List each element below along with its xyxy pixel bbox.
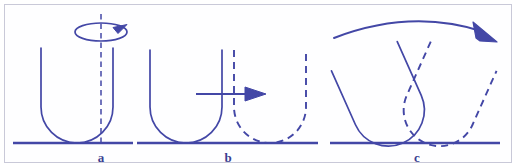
figure-container: a b <box>0 0 516 167</box>
panel-b-label: b <box>224 150 231 165</box>
panel-c: c <box>330 21 500 165</box>
panel-c-rotation-arc-shaft <box>334 21 484 38</box>
panel-b: b <box>137 50 318 165</box>
panel-b-translation-arrowhead-icon <box>245 87 266 101</box>
panel-c-rotation-arrowhead-icon <box>473 22 497 42</box>
panel-a-label: a <box>98 150 105 165</box>
panel-b-u-shape-solid <box>150 50 222 143</box>
panel-c-label: c <box>414 150 420 165</box>
figure-illustration: a b <box>0 0 516 167</box>
panel-a-u-shape <box>41 48 113 143</box>
panel-a: a <box>13 14 133 165</box>
